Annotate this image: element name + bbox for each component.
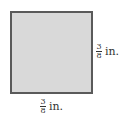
bottom-side-length-label: 3 8 in.: [40, 98, 63, 115]
fraction: 3 8: [96, 43, 102, 60]
fraction: 3 8: [40, 98, 46, 115]
unit: in.: [105, 45, 119, 58]
unit: in.: [49, 100, 63, 113]
square-shape: [10, 11, 93, 94]
denominator: 8: [40, 107, 45, 115]
denominator: 8: [96, 52, 101, 60]
right-side-length-label: 3 8 in.: [96, 43, 119, 60]
numerator: 3: [96, 43, 101, 51]
numerator: 3: [40, 98, 45, 106]
